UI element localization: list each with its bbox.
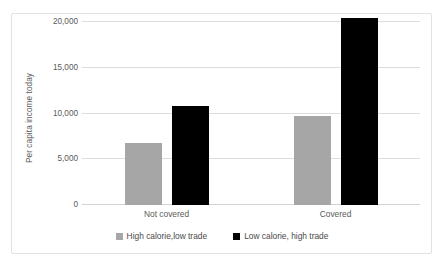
y-tick-label-10000: 10,000 [26, 109, 78, 118]
bar-covered-series-1 [294, 116, 331, 205]
x-axis-category-labels: Not coveredCovered [82, 208, 420, 222]
legend-item-2[interactable]: Low calorie, high trade [233, 231, 328, 241]
legend-label-2: Low calorie, high trade [244, 231, 328, 241]
plot-area [82, 22, 420, 205]
y-tick-label-15000: 15,000 [26, 63, 78, 72]
legend-swatch-icon-2 [233, 233, 240, 240]
y-axis-tick-labels: 05,00010,00015,00020,000 [22, 22, 78, 205]
category-label-covered: Covered [251, 208, 420, 220]
bar-not-covered-series-1 [125, 143, 162, 205]
chart-container: Per capita income today 05,00010,00015,0… [0, 0, 444, 266]
y-tick-label-20000: 20,000 [26, 17, 78, 26]
bar-not-covered-series-2 [172, 106, 209, 205]
y-tick-label-0: 0 [26, 200, 78, 209]
legend-swatch-icon-1 [116, 233, 123, 240]
chart-legend: High calorie,low tradeLow calorie, high … [0, 228, 444, 244]
y-tick-label-5000: 5,000 [26, 154, 78, 163]
legend-label-1: High calorie,low trade [127, 231, 208, 241]
bar-covered-series-2 [341, 18, 378, 205]
legend-item-1[interactable]: High calorie,low trade [116, 231, 208, 241]
category-label-not-covered: Not covered [82, 208, 251, 220]
